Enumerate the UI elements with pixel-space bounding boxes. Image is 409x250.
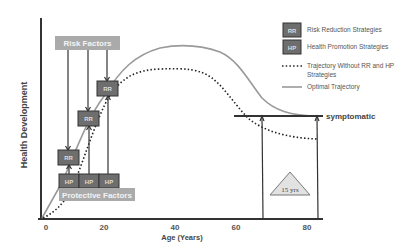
legend-rr-label: Risk Reduction Strategies bbox=[307, 26, 383, 34]
x-tick-label: 80 bbox=[303, 223, 312, 232]
hp-box-label: HP bbox=[105, 179, 113, 185]
hp-box-label: HP bbox=[65, 179, 73, 185]
x-tick-label: 60 bbox=[232, 223, 241, 232]
x-tick-label: 20 bbox=[100, 223, 109, 232]
protective-factors-label: Protective Factors bbox=[62, 191, 132, 200]
onset-marker-optimal bbox=[317, 116, 318, 219]
x-tick-label: 40 bbox=[171, 223, 180, 232]
onset-marker-without-strategies bbox=[262, 116, 263, 219]
legend: RR Risk Reduction Strategies HP Health P… bbox=[282, 23, 394, 91]
rr-box-label: RR bbox=[64, 155, 73, 161]
gap-label: 15 yrs bbox=[281, 186, 299, 194]
x-axis-label: Age (Years) bbox=[161, 233, 203, 242]
symptomatic-label: symptomatic bbox=[326, 112, 376, 121]
y-axis-label: Health Development bbox=[19, 82, 29, 169]
legend-hp-label: Health Promotion Strategies bbox=[307, 43, 389, 51]
legend-solid-label: Optimal Trajectory bbox=[307, 83, 360, 91]
legend-dotted-label-cont: Strategies bbox=[307, 71, 337, 79]
legend-hp-swatch-label: HP bbox=[288, 45, 296, 51]
health-development-diagram: Health Development 0 20 40 60 80 Age (Ye… bbox=[0, 0, 409, 250]
risk-factors-label: Risk Factors bbox=[63, 39, 112, 48]
rr-box-label: RR bbox=[84, 116, 93, 122]
x-tick-label: 0 bbox=[44, 223, 49, 232]
legend-dotted-label: Trajectory Without RR and HP bbox=[307, 62, 394, 70]
hp-box-label: HP bbox=[85, 179, 93, 185]
rr-box-label: RR bbox=[103, 86, 112, 92]
legend-rr-swatch-label: RR bbox=[288, 28, 297, 34]
